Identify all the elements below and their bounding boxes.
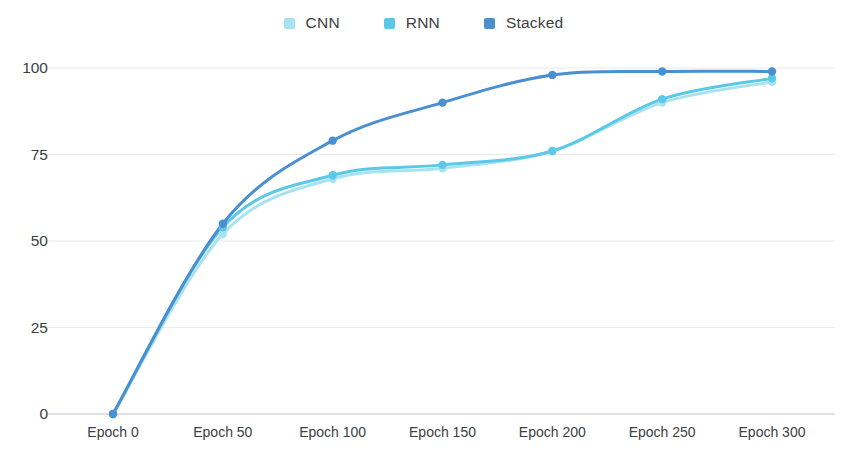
x-tick-label: Epoch 200 xyxy=(519,424,586,440)
data-point-rnn-200[interactable] xyxy=(548,147,556,155)
data-point-stacked-150[interactable] xyxy=(438,98,446,106)
y-tick-label: 75 xyxy=(2,146,48,164)
x-tick-label: Epoch 50 xyxy=(193,424,252,440)
x-tick-label: Epoch 150 xyxy=(409,424,476,440)
data-point-rnn-250[interactable] xyxy=(658,95,666,103)
x-tick-label: Epoch 100 xyxy=(299,424,366,440)
data-point-stacked-200[interactable] xyxy=(548,71,556,79)
line-chart: CNN RNN Stacked 1007550250 Epoch 0Epoch … xyxy=(0,0,847,465)
data-point-stacked-300[interactable] xyxy=(768,67,776,75)
x-tick-label: Epoch 250 xyxy=(629,424,696,440)
y-tick-label: 100 xyxy=(2,59,48,77)
y-tick-label: 0 xyxy=(2,405,48,423)
y-tick-label: 50 xyxy=(2,232,48,250)
plot-svg xyxy=(0,0,847,465)
data-point-stacked-50[interactable] xyxy=(219,220,227,228)
y-axis-ticks: 1007550250 xyxy=(0,0,48,465)
x-tick-label: Epoch 300 xyxy=(739,424,806,440)
data-point-stacked-250[interactable] xyxy=(658,67,666,75)
data-point-rnn-150[interactable] xyxy=(438,161,446,169)
y-tick-label: 25 xyxy=(2,319,48,337)
series-line-cnn xyxy=(113,82,772,414)
x-tick-label: Epoch 0 xyxy=(87,424,138,440)
plot-area xyxy=(0,0,847,465)
data-point-rnn-100[interactable] xyxy=(328,171,336,179)
cropped-caption-strip xyxy=(0,455,847,465)
series-layer xyxy=(113,71,772,414)
data-point-stacked-100[interactable] xyxy=(328,136,336,144)
data-point-stacked-0[interactable] xyxy=(109,410,117,418)
grid-lines xyxy=(48,68,835,414)
